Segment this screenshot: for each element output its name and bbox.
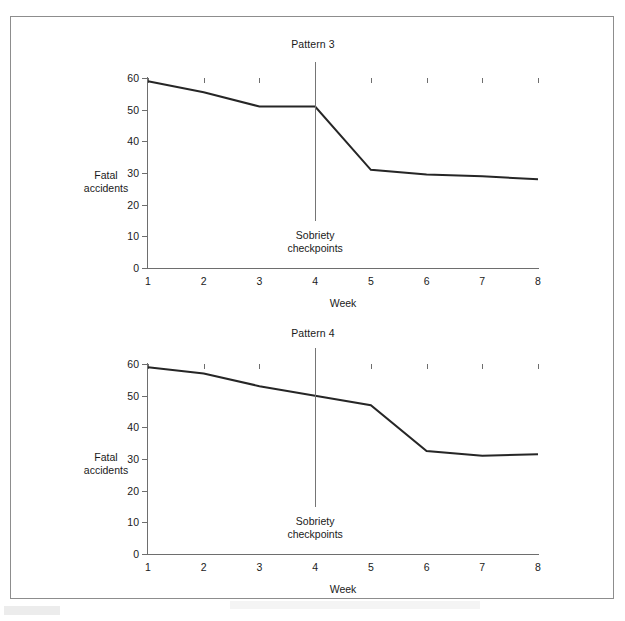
y-tick-label: 20 <box>127 485 139 497</box>
x-tick-mark <box>538 364 539 369</box>
x-tick-label: 7 <box>479 561 485 573</box>
y-axis-title-pattern4-outer: Fatal accidents <box>73 451 139 477</box>
y-tick-mark <box>142 268 148 269</box>
x-tick-mark <box>538 78 539 83</box>
x-tick-label: 4 <box>312 561 318 573</box>
y-axis-title-line1: Fatal <box>73 451 139 464</box>
x-tick-label: 1 <box>145 561 151 573</box>
page-edge-smudge-center <box>230 601 480 609</box>
figure-frame: Pattern 3 Fatal accidents 0102030405060 … <box>10 16 614 599</box>
y-tick-label: 50 <box>127 104 139 116</box>
data-series-pattern4 <box>148 364 538 554</box>
intervention-label-line2: checkpoints <box>287 242 342 255</box>
plot-area-pattern3: 0102030405060 12345678 Sobriety checkpoi… <box>148 78 538 268</box>
x-tick-label: 8 <box>535 561 541 573</box>
y-tick-label: 60 <box>127 358 139 370</box>
intervention-label-pattern4: Sobriety checkpoints <box>287 515 342 541</box>
x-axis-line-pattern3 <box>147 268 539 269</box>
y-tick-label: 10 <box>127 516 139 528</box>
y-axis-title-line2: accidents <box>73 182 139 195</box>
intervention-label-line1: Sobriety <box>287 229 342 242</box>
y-axis-title-line2: accidents <box>73 464 139 477</box>
x-tick-label: 3 <box>257 275 263 287</box>
intervention-line-pattern4 <box>315 348 316 506</box>
x-tick-label: 5 <box>368 561 374 573</box>
y-tick-label: 60 <box>127 72 139 84</box>
x-tick-label: 6 <box>424 275 430 287</box>
intervention-label-line1: Sobriety <box>287 515 342 528</box>
x-tick-label: 5 <box>368 275 374 287</box>
x-tick-label: 8 <box>535 275 541 287</box>
x-axis-line-pattern4 <box>147 554 539 555</box>
x-tick-label: 2 <box>201 275 207 287</box>
x-tick-label: 6 <box>424 561 430 573</box>
y-tick-label: 30 <box>127 167 139 179</box>
y-tick-label: 0 <box>133 262 139 274</box>
y-tick-label: 10 <box>127 230 139 242</box>
intervention-line-pattern3 <box>315 62 316 220</box>
chart-title-pattern3: Pattern 3 <box>11 38 615 50</box>
x-tick-label: 7 <box>479 275 485 287</box>
y-tick-label: 50 <box>127 390 139 402</box>
data-series-pattern3 <box>148 78 538 268</box>
chart-title-pattern4: Pattern 4 <box>11 327 615 339</box>
x-tick-label: 2 <box>201 561 207 573</box>
x-tick-label: 3 <box>257 561 263 573</box>
chart-panel-pattern3: Pattern 3 Fatal accidents 0102030405060 … <box>11 17 615 317</box>
x-tick-label: 4 <box>312 275 318 287</box>
y-tick-label: 40 <box>127 135 139 147</box>
y-tick-label: 0 <box>133 548 139 560</box>
y-tick-label: 40 <box>127 421 139 433</box>
intervention-label-line2: checkpoints <box>287 528 342 541</box>
plot-area-pattern4: 0102030405060 12345678 Sobriety checkpoi… <box>148 364 538 554</box>
y-tick-mark <box>142 554 148 555</box>
y-tick-label: 20 <box>127 199 139 211</box>
intervention-label-pattern3: Sobriety checkpoints <box>287 229 342 255</box>
page-edge-smudge-left <box>4 606 60 615</box>
x-tick-label: 1 <box>145 275 151 287</box>
x-axis-title-pattern4: Week <box>148 583 538 595</box>
